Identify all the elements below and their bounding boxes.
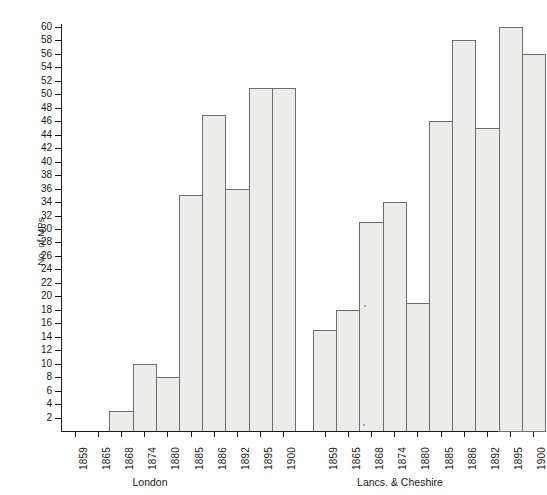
bar bbox=[475, 128, 499, 432]
y-axis-tick-label-wrap: 24 bbox=[16, 264, 52, 274]
y-axis-tick bbox=[55, 391, 61, 392]
y-axis-tick-label: 46 bbox=[18, 116, 52, 126]
bar bbox=[109, 411, 133, 432]
x-axis-tick bbox=[144, 432, 145, 437]
y-axis-tick bbox=[55, 377, 61, 378]
x-axis-tick-label: 1886 bbox=[468, 447, 478, 470]
group-label-london: London bbox=[60, 477, 240, 488]
bar bbox=[522, 54, 546, 432]
y-axis-tick-label: 32 bbox=[18, 211, 52, 221]
y-axis-tick-label: 52 bbox=[18, 76, 52, 86]
x-axis-tick bbox=[214, 432, 215, 437]
x-axis-tick bbox=[237, 432, 238, 437]
bar bbox=[202, 115, 226, 432]
y-axis-tick bbox=[55, 269, 61, 270]
bar bbox=[359, 222, 383, 432]
y-axis-tick-label: 54 bbox=[18, 62, 52, 72]
y-axis-tick-label: 58 bbox=[18, 35, 52, 45]
y-axis-tick-label-wrap: 54 bbox=[16, 62, 52, 72]
y-axis-tick bbox=[55, 202, 61, 203]
y-axis-tick-label-wrap: 58 bbox=[16, 35, 52, 45]
y-axis-tick-label: 2 bbox=[18, 413, 52, 423]
y-axis-tick-label: 30 bbox=[18, 224, 52, 234]
bar bbox=[336, 310, 360, 432]
y-axis-tick-label-wrap: 56 bbox=[16, 49, 52, 59]
x-axis-tick bbox=[325, 432, 326, 437]
x-axis-tick bbox=[348, 432, 349, 437]
y-axis-tick-label-wrap: 50 bbox=[16, 89, 52, 99]
bar bbox=[313, 330, 337, 432]
bar bbox=[272, 88, 296, 432]
x-axis-tick-label: 1880 bbox=[171, 447, 181, 470]
y-axis-tick-label: 26 bbox=[18, 251, 52, 261]
y-axis-tick-label-wrap: 4 bbox=[16, 399, 52, 409]
x-axis-tick bbox=[98, 432, 99, 437]
x-axis-tick-label: 1880 bbox=[421, 447, 431, 470]
x-axis-tick bbox=[167, 432, 168, 437]
bar bbox=[156, 377, 180, 432]
y-axis-tick-label: 16 bbox=[18, 318, 52, 328]
y-axis-tick-label-wrap: 42 bbox=[16, 143, 52, 153]
y-axis-tick-label-wrap: 22 bbox=[16, 278, 52, 288]
x-axis-tick bbox=[371, 432, 372, 437]
x-axis-tick-label: 1859 bbox=[329, 447, 339, 470]
bar bbox=[383, 202, 407, 432]
x-axis-tick bbox=[121, 432, 122, 437]
x-axis-tick bbox=[75, 432, 76, 437]
y-axis-tick bbox=[55, 216, 61, 217]
x-axis-tick-label: 1885 bbox=[445, 447, 455, 470]
y-axis-tick bbox=[55, 175, 61, 176]
x-axis-tick bbox=[417, 432, 418, 437]
y-axis-tick-label-wrap: 28 bbox=[16, 237, 52, 247]
x-axis-tick-label: 1892 bbox=[241, 447, 251, 470]
y-axis-tick-label-wrap: 38 bbox=[16, 170, 52, 180]
y-axis-tick-label: 18 bbox=[18, 305, 52, 315]
y-axis-tick bbox=[55, 323, 61, 324]
y-axis-tick-label-wrap: 60 bbox=[16, 22, 52, 32]
y-axis-tick-label-wrap: 14 bbox=[16, 332, 52, 342]
y-axis-tick bbox=[55, 242, 61, 243]
bar bbox=[429, 121, 453, 432]
x-axis-tick bbox=[441, 432, 442, 437]
x-axis-tick bbox=[394, 432, 395, 437]
y-axis-tick-label-wrap: 6 bbox=[16, 386, 52, 396]
y-axis-tick-label: 36 bbox=[18, 184, 52, 194]
y-axis-tick bbox=[55, 121, 61, 122]
y-axis-tick-label: 28 bbox=[18, 237, 52, 247]
y-axis-tick-label: 24 bbox=[18, 264, 52, 274]
x-axis-tick-label: 1868 bbox=[125, 447, 135, 470]
y-axis-tick-label-wrap: 30 bbox=[16, 224, 52, 234]
x-axis-tick-label: 1900 bbox=[287, 447, 297, 470]
y-axis-tick-label-wrap: 8 bbox=[16, 372, 52, 382]
x-axis-tick-label: 1865 bbox=[352, 447, 362, 470]
y-axis-tick bbox=[55, 229, 61, 230]
y-axis-tick-label-wrap: 36 bbox=[16, 184, 52, 194]
y-axis-tick-label-wrap: 48 bbox=[16, 103, 52, 113]
x-axis-tick bbox=[533, 432, 534, 437]
y-axis-tick bbox=[55, 404, 61, 405]
y-axis-tick-label: 40 bbox=[18, 157, 52, 167]
y-axis-tick bbox=[55, 54, 61, 55]
y-axis-tick bbox=[55, 310, 61, 311]
y-axis-tick-label-wrap: 20 bbox=[16, 291, 52, 301]
y-axis-tick bbox=[55, 283, 61, 284]
bar bbox=[406, 303, 430, 432]
y-axis-tick-label-wrap: 34 bbox=[16, 197, 52, 207]
x-axis-tick bbox=[260, 432, 261, 437]
x-axis-tick-label: 1886 bbox=[218, 447, 228, 470]
y-axis-tick-label: 6 bbox=[18, 386, 52, 396]
bar bbox=[133, 364, 157, 432]
y-axis-tick-label-wrap: 44 bbox=[16, 130, 52, 140]
y-axis-tick-label: 50 bbox=[18, 89, 52, 99]
y-axis-tick bbox=[55, 189, 61, 190]
y-axis-tick-label-wrap: 18 bbox=[16, 305, 52, 315]
x-axis-tick bbox=[191, 432, 192, 437]
y-axis-tick-label-wrap: 16 bbox=[16, 318, 52, 328]
y-axis-tick-label: 34 bbox=[18, 197, 52, 207]
y-axis-line bbox=[61, 24, 62, 432]
y-axis-tick-label: 12 bbox=[18, 345, 52, 355]
y-axis-tick-label-wrap: 2 bbox=[16, 413, 52, 423]
y-axis-tick-label: 22 bbox=[18, 278, 52, 288]
x-axis-tick-label: 1868 bbox=[375, 447, 385, 470]
